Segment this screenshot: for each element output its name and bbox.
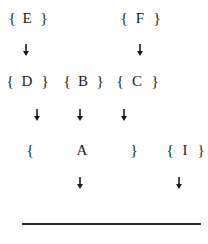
- set-I-open-brace: {: [166, 143, 173, 158]
- set-F-open-brace: {: [120, 11, 127, 26]
- set-B-open-brace: {: [63, 74, 70, 89]
- set-A-close-brace: }: [130, 143, 137, 158]
- set-E-close-brace: }: [40, 11, 47, 26]
- set-I-close-brace: }: [197, 143, 204, 158]
- set-F-label: F: [136, 11, 144, 26]
- set-E-open-brace: {: [8, 11, 15, 26]
- baseline-rule: [22, 223, 201, 225]
- down-arrow-icon: [136, 44, 144, 56]
- down-arrow-icon: [22, 44, 30, 56]
- set-B-label: B: [78, 74, 88, 89]
- down-arrow-icon: [120, 109, 128, 121]
- set-D-open-brace: {: [6, 74, 13, 89]
- down-arrow-icon: [76, 109, 84, 121]
- set-B-close-brace: }: [96, 74, 103, 89]
- down-arrow-icon: [76, 177, 84, 189]
- set-E-label: E: [22, 11, 31, 26]
- set-C-open-brace: {: [116, 74, 123, 89]
- set-D-label: D: [22, 74, 33, 89]
- set-F-close-brace: }: [153, 11, 160, 26]
- set-C-close-brace: }: [151, 74, 158, 89]
- down-arrow-icon: [33, 109, 41, 121]
- set-C-label: C: [132, 74, 142, 89]
- set-A-label: A: [77, 143, 88, 158]
- down-arrow-icon: [175, 177, 183, 189]
- set-D-close-brace: }: [41, 74, 48, 89]
- set-I-label: I: [183, 143, 188, 158]
- set-A-open-brace: {: [26, 143, 33, 158]
